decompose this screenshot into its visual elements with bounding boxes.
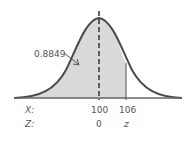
x-tick-100: 100 [91,105,108,115]
x-tick-106: 106 [119,105,136,115]
x-axis-label: X: [25,105,34,115]
z-axis-label: Z: [25,119,34,129]
z-tick-z: z [124,119,129,129]
normal-distribution-diagram: 0.8849 X: Z: 100 106 0 z [0,0,192,143]
area-probability-label: 0.8849 [34,49,66,59]
z-tick-0: 0 [96,119,102,129]
